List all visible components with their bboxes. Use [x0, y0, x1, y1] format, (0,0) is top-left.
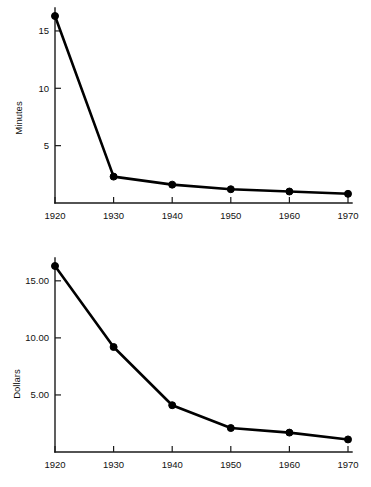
y-tick-label: 5 — [44, 140, 49, 151]
x-tick-label: 1920 — [44, 210, 65, 221]
data-point-marker — [110, 344, 117, 351]
x-tick-label: 1930 — [103, 210, 124, 221]
data-point-marker — [169, 402, 176, 409]
x-tick-label: 1970 — [337, 210, 358, 221]
data-point-marker — [52, 262, 59, 269]
x-tick-label: 1970 — [337, 459, 358, 470]
chart-dollars: 5.0010.0015.00192019301940195019601970Do… — [0, 244, 371, 487]
x-tick-label: 1940 — [162, 210, 183, 221]
y-tick-label: 15.00 — [25, 275, 49, 286]
y-tick-label: 10 — [38, 83, 49, 94]
data-point-marker — [169, 181, 176, 188]
minutes-plot-area: 51015192019301940195019601970Minutes — [0, 0, 371, 244]
y-tick-label: 5.00 — [31, 389, 50, 400]
y-axis-title: Dollars — [11, 369, 22, 399]
y-tick-label: 15 — [38, 25, 49, 36]
y-tick-label: 10.00 — [25, 332, 49, 343]
x-tick-label: 1950 — [220, 210, 241, 221]
x-tick-label: 1950 — [220, 459, 241, 470]
data-point-marker — [345, 436, 352, 443]
data-point-marker — [286, 429, 293, 436]
dollars-plot-area: 5.0010.0015.00192019301940195019601970Do… — [0, 244, 371, 487]
data-point-marker — [227, 425, 234, 432]
x-tick-label: 1960 — [279, 459, 300, 470]
chart-minutes: 51015192019301940195019601970Minutes — [0, 0, 371, 244]
data-point-marker — [110, 173, 117, 180]
x-tick-label: 1920 — [44, 459, 65, 470]
x-tick-label: 1960 — [279, 210, 300, 221]
data-point-marker — [286, 188, 293, 195]
x-tick-label: 1940 — [162, 459, 183, 470]
data-point-marker — [52, 13, 59, 20]
series-line — [55, 266, 348, 439]
series-line — [55, 16, 348, 194]
data-point-marker — [345, 190, 352, 197]
x-tick-label: 1930 — [103, 459, 124, 470]
data-point-marker — [227, 186, 234, 193]
y-axis-title: Minutes — [13, 101, 24, 135]
